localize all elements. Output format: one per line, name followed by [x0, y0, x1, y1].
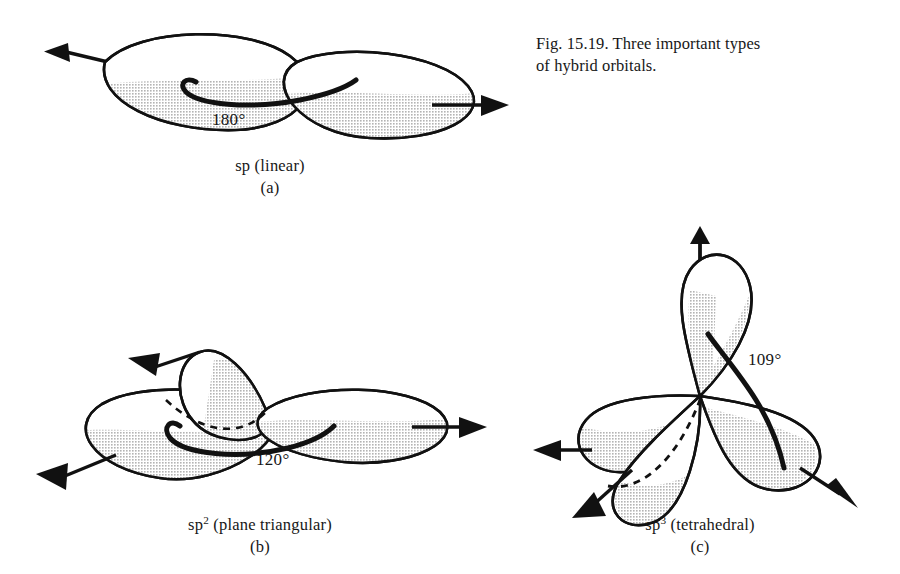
panel-label-sp3-prefix: sp: [645, 515, 660, 534]
panel-label-sp-prefix: sp: [235, 156, 250, 175]
figure-caption: Fig. 15.19. Three important types of hyb…: [536, 33, 886, 78]
panel-sp3-tetrahedral: [533, 226, 858, 540]
angle-label-sp: 180°: [212, 110, 246, 130]
panel-label-sp2-prefix: sp: [188, 515, 203, 534]
panel-label-sp3-suffix: (tetrahedral): [666, 515, 754, 534]
orbital-axis-arrow-left-a: [44, 43, 108, 62]
panel-label-sp-suffix: (linear): [250, 156, 304, 175]
orbital-axis-arrow-lower-right-c: [800, 468, 858, 508]
panel-letter-a: (a): [140, 178, 400, 198]
figure-caption-line-2: of hybrid orbitals.: [536, 55, 886, 77]
panel-label-sp: sp (linear): [140, 156, 400, 176]
panel-letter-b: (b): [110, 537, 410, 557]
orbital-lobe-top-c: [681, 255, 775, 400]
panel-sp-linear: [44, 34, 509, 155]
panel-sp2-plane-triangular: [36, 351, 487, 500]
orbital-axis-arrow-lower-left-b: [36, 455, 116, 490]
angle-label-sp3: 109°: [748, 350, 782, 370]
panel-letter-c: (c): [570, 537, 830, 557]
panel-label-sp2: sp2 (plane triangular): [110, 515, 410, 535]
panel-label-sp3: sp3 (tetrahedral): [570, 515, 830, 535]
panel-label-sp2-suffix: (plane triangular): [209, 515, 332, 534]
orbital-diagram-canvas: [0, 0, 900, 574]
angle-label-sp2: 120°: [256, 450, 290, 470]
figure-root: Fig. 15.19. Three important types of hyb…: [0, 0, 900, 574]
figure-caption-line-1: Fig. 15.19. Three important types: [536, 33, 886, 55]
